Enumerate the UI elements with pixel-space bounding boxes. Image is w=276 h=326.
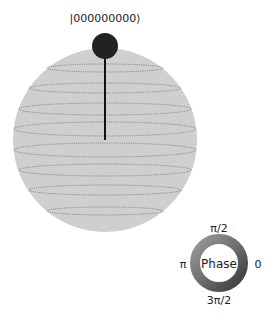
phase-center-label: Phase [201,257,237,271]
state-point [92,33,118,59]
phase-legend: Phase π/2 π 0 3π/2 [180,222,262,307]
phase-label-left: π [180,258,187,271]
phase-label-right: 0 [255,258,262,271]
state-label: |000000000⟩ [70,12,141,25]
phase-label-bottom: 3π/2 [207,294,231,307]
phase-label-top: π/2 [210,222,227,235]
qsphere-figure: |000000000⟩ Phase π/2 π 0 3π/2 [0,0,276,326]
